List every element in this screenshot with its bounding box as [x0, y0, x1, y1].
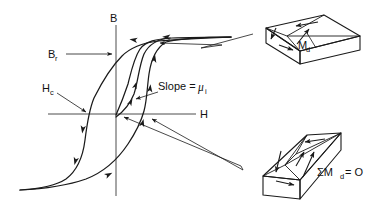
slope-mu-subscript: i [205, 87, 207, 96]
top-box-leader-line [160, 34, 253, 48]
coercivity-label-subscript: c [50, 88, 54, 97]
axes-group [48, 25, 196, 196]
direction-arrow-top-a [129, 37, 138, 43]
top-box-top-arrow [296, 22, 318, 26]
slope-mu-symbol: μ [197, 81, 204, 94]
bottom-box-left-arrow [276, 151, 281, 172]
bottom-box-bottom-arrow [276, 181, 294, 185]
hc-leader-line [57, 93, 86, 112]
domain-top-label-subscript: d [306, 45, 310, 54]
domain-bottom-label-subscript: d [340, 172, 344, 181]
bottom-box-right-arrow [296, 152, 304, 166]
bottom-box-front-face [263, 176, 300, 199]
bottom-box-center-arrow [303, 152, 314, 177]
slope-label: Slope = [158, 80, 196, 92]
minor-inner-branch [116, 38, 170, 117]
top-box-bottom-arrow [279, 45, 293, 50]
hysteresis-figure: B H B r H c Slope = μ i M d ΣM d = O [0, 0, 383, 215]
remanence-label-subscript: r [55, 54, 58, 63]
h-axis-label: H [200, 108, 208, 120]
direction-arrow-left-a [80, 125, 86, 134]
domain-bottom-label-tail: = O [345, 166, 363, 178]
top-box-left-arrow [271, 28, 276, 39]
direction-arrow-bottom [104, 170, 114, 179]
domain-bottom-label: ΣM [317, 166, 333, 178]
b-axis-label: B [110, 12, 117, 24]
coercivity-label: H [42, 82, 50, 94]
hysteresis-diagram-svg: B H B r H c Slope = μ i M d ΣM d = O [0, 0, 383, 215]
loop-direction-arrows [72, 34, 171, 179]
saturated-domain-box [266, 15, 360, 64]
bottom-box-leader-line-b [152, 119, 243, 170]
initial-magnetization-curve [116, 37, 231, 115]
